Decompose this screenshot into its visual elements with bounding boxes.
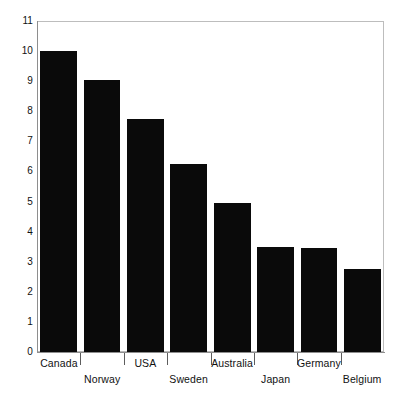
y-axis-tick-label: 3 [5, 257, 33, 267]
x-axis-category-label: Canada [40, 358, 77, 369]
bar [301, 248, 338, 352]
x-axis-category-labels: CanadaNorwayUSASwedenAustraliaJapanGerma… [0, 353, 400, 398]
y-axis-tick-label: 6 [5, 166, 33, 176]
bar-chart: 01234567891011 CanadaNorwayUSASwedenAust… [0, 0, 400, 398]
x-axis-category-label: USA [134, 358, 156, 369]
y-axis-tick-label: 9 [5, 76, 33, 86]
bar [214, 203, 251, 352]
y-axis-tick-label: 2 [5, 287, 33, 297]
y-axis-tick-labels: 01234567891011 [0, 0, 33, 398]
y-axis-tick-label: 8 [5, 106, 33, 116]
bar [127, 119, 164, 352]
bars-container [37, 21, 384, 352]
x-axis-category-label: Australia [211, 358, 253, 369]
y-axis-tick-label: 11 [5, 16, 33, 26]
bar [40, 51, 77, 352]
y-axis-tick-label: 5 [5, 197, 33, 207]
y-axis-tick-label: 1 [5, 317, 33, 327]
x-axis-category-label: Germany [297, 358, 341, 369]
bar [257, 247, 294, 352]
y-axis-tick-label: 7 [5, 136, 33, 146]
x-axis-category-label: Norway [84, 374, 120, 385]
bar [84, 80, 121, 352]
x-axis-category-label: Sweden [169, 374, 208, 385]
bar [170, 164, 207, 352]
y-axis-tick-label: 10 [5, 46, 33, 56]
bar [344, 269, 381, 352]
y-axis-tick-label: 4 [5, 227, 33, 237]
x-axis-category-label: Belgium [343, 374, 382, 385]
x-axis-category-label: Japan [261, 374, 290, 385]
